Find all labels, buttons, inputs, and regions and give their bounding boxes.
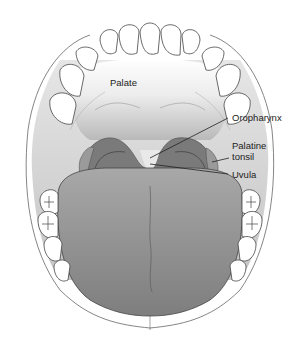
- label-palatine-tonsil-line1: Palatine: [232, 140, 266, 151]
- palate-region: [73, 59, 228, 140]
- label-uvula: Uvula: [232, 169, 256, 180]
- label-oropharynx: Oropharynx: [232, 112, 282, 123]
- label-palate: Palate: [110, 77, 137, 88]
- label-palatine-tonsil-line2: tonsil: [232, 151, 254, 162]
